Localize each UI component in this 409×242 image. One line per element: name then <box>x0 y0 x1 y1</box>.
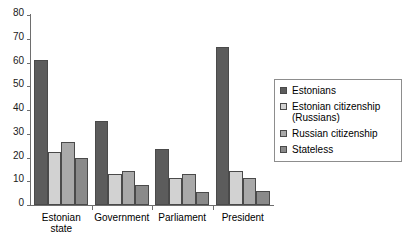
legend-item: Estonian citizenship (Russians) <box>280 101 397 123</box>
y-axis-tick-label: 60 <box>13 56 24 66</box>
y-axis-tick-label: 70 <box>13 32 24 42</box>
legend-label: Russian citizenship <box>292 128 378 139</box>
y-axis-tick-label: 50 <box>13 79 24 89</box>
x-axis-category-label: Parliament <box>152 212 213 223</box>
x-axis-tick-mark <box>92 206 93 210</box>
legend-label: Estonians <box>292 85 336 96</box>
bar-2-0 <box>61 142 75 205</box>
bar-1-3 <box>229 171 243 205</box>
x-axis-tick-mark <box>213 206 214 210</box>
bar-0-3 <box>216 47 230 205</box>
bar-2-3 <box>243 178 257 205</box>
x-axis-category-label: Estonian state <box>31 212 92 234</box>
chart-title <box>6 0 306 5</box>
legend-swatch-icon <box>280 130 287 137</box>
bar-chart: 01020304050607080 Estonian stateGovernme… <box>0 0 409 242</box>
bar-3-1 <box>135 185 149 205</box>
legend-swatch-icon <box>280 146 287 153</box>
legend-item: Russian citizenship <box>280 128 397 139</box>
legend-label: Estonian citizenship (Russians) <box>292 101 397 123</box>
bar-1-1 <box>108 174 122 205</box>
y-axis-tick-label: 40 <box>13 103 24 113</box>
chart-legend: EstoniansEstonian citizenship (Russians)… <box>274 79 402 162</box>
y-axis-tick-label: 0 <box>18 198 24 208</box>
legend-swatch-icon <box>280 103 287 110</box>
y-axis-tick-mark <box>27 205 31 206</box>
bar-3-2 <box>196 192 210 205</box>
bar-1-2 <box>169 178 183 205</box>
x-axis-category-label: President <box>213 212 274 223</box>
legend-item: Stateless <box>280 144 397 155</box>
x-axis-tick-mark <box>152 206 153 210</box>
bar-0-0 <box>34 60 48 205</box>
plot-area <box>31 15 273 205</box>
bar-2-2 <box>182 174 196 205</box>
bar-2-1 <box>122 171 136 205</box>
legend-label: Stateless <box>292 144 333 155</box>
bar-3-0 <box>75 158 89 206</box>
y-axis-tick-label: 30 <box>13 127 24 137</box>
y-axis-tick-label: 80 <box>13 8 24 18</box>
bar-0-2 <box>155 149 169 205</box>
legend-item: Estonians <box>280 85 397 96</box>
bar-0-1 <box>95 121 109 205</box>
y-axis-tick-label: 10 <box>13 174 24 184</box>
bar-1-0 <box>48 152 62 205</box>
x-axis-category-label: Government <box>92 212 153 223</box>
legend-swatch-icon <box>280 87 287 94</box>
bar-3-3 <box>256 191 270 205</box>
y-axis-tick-label: 20 <box>13 151 24 161</box>
